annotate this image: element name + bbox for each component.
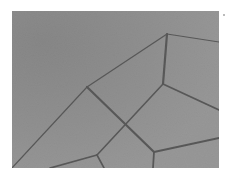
- grain-boundary-figure: [12, 11, 219, 168]
- micrograph-image: [12, 11, 219, 168]
- noise-overlay: [12, 11, 219, 168]
- edge-mark: [223, 14, 225, 16]
